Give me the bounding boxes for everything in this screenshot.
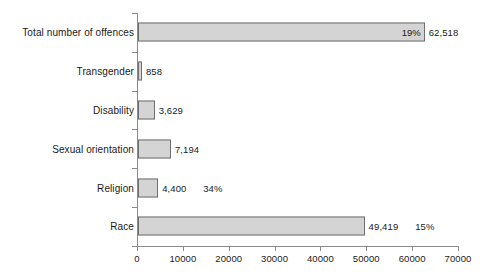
- bar-inside-percent-label: 19%: [402, 27, 421, 38]
- category-label: Sexual orientation: [52, 143, 134, 154]
- x-axis-tick-label: 30000: [261, 253, 288, 264]
- bar-value-label: 4,400: [162, 182, 186, 193]
- x-axis-tick: [229, 246, 230, 251]
- x-axis-tick-label: 60000: [399, 253, 426, 264]
- bar-row: Transgender858: [0, 52, 490, 91]
- bar: [138, 139, 171, 158]
- x-axis-tick: [366, 246, 367, 251]
- bar-value-label: 49,419: [369, 221, 399, 232]
- bar-value-label: 62,518: [429, 27, 459, 38]
- x-axis-tick-label: 40000: [307, 253, 334, 264]
- bar-chart: 010000200003000040000500006000070000 Tot…: [0, 0, 490, 280]
- bar-row: Sexual orientation7,194: [0, 129, 490, 168]
- bar-percent-label: 34%: [203, 182, 222, 193]
- category-label: Race: [110, 221, 134, 232]
- x-axis-tick-label: 20000: [215, 253, 242, 264]
- bar: [138, 178, 158, 197]
- x-axis-tick-label: 0: [134, 253, 139, 264]
- bar: [138, 62, 142, 81]
- bar-row: Religion4,40034%: [0, 168, 490, 207]
- bar: [138, 217, 365, 236]
- bar-row: Disability3,629: [0, 91, 490, 130]
- bar-row: Total number of offences19%62,518: [0, 13, 490, 52]
- bar-value-label: 3,629: [159, 104, 183, 115]
- x-axis-tick: [137, 246, 138, 251]
- x-axis-tick: [458, 246, 459, 251]
- x-axis-tick: [275, 246, 276, 251]
- plot-area: 010000200003000040000500006000070000 Tot…: [0, 0, 490, 280]
- bar-value-label: 7,194: [175, 143, 199, 154]
- x-axis-tick-label: 70000: [445, 253, 472, 264]
- category-label: Disability: [93, 104, 134, 115]
- x-axis-tick: [320, 246, 321, 251]
- category-label: Total number of offences: [22, 27, 134, 38]
- bar-percent-label: 15%: [415, 221, 434, 232]
- x-axis-tick-label: 10000: [169, 253, 196, 264]
- bar-row: Race49,41915%: [0, 207, 490, 246]
- bar: 19%: [138, 23, 425, 42]
- x-axis-tick: [183, 246, 184, 251]
- category-label: Transgender: [77, 66, 134, 77]
- x-axis-tick-label: 50000: [353, 253, 380, 264]
- x-axis-tick: [412, 246, 413, 251]
- bar: [138, 100, 155, 119]
- bar-value-label: 858: [146, 66, 162, 77]
- value-axis-line: [137, 246, 458, 247]
- category-label: Religion: [97, 182, 134, 193]
